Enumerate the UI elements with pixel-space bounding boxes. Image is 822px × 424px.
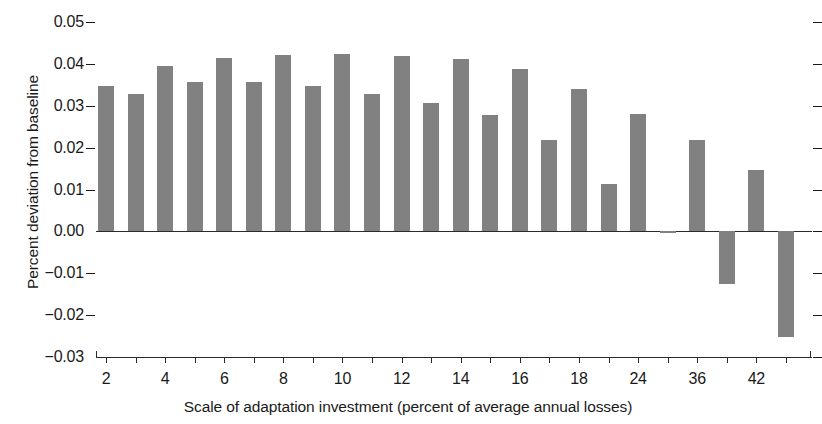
bar [423,103,439,231]
x-axis-tick-label: 2 [86,371,126,387]
bar [246,82,262,231]
bar [364,94,380,231]
y-axis-tick-right [813,106,822,107]
bar [571,89,587,231]
bar [187,82,203,231]
bar [630,114,646,232]
bar [453,59,469,231]
x-axis-tick [579,357,580,363]
bar [157,66,173,232]
y-axis-tick-right [813,357,822,358]
x-axis-tick [756,357,757,363]
x-axis-tick-label: 10 [322,371,362,387]
x-axis-tick [313,357,314,363]
bar [778,231,794,337]
y-axis-tick-label: 0.01 [26,182,84,198]
y-axis-tick-right [813,64,822,65]
y-axis-tick [86,315,95,316]
x-axis-tick-label: 8 [263,371,303,387]
bar [305,86,321,231]
x-axis-tick-label: 12 [382,371,422,387]
bar [216,58,232,231]
x-axis-tick-label: 18 [559,371,599,387]
x-axis-tick-label: 42 [736,371,776,387]
x-axis-tick [224,357,225,363]
x-axis-tick [402,357,403,363]
y-axis-tick [86,106,95,107]
y-axis-tick [86,190,95,191]
x-axis-tick [490,357,491,363]
y-axis-tick-right [813,273,822,274]
x-axis-tick [431,357,432,363]
y-axis-tick-right [813,22,822,23]
bar [512,69,528,231]
x-axis-tick [254,357,255,363]
y-axis-tick [86,273,95,274]
y-axis-tick-label: 0.00 [26,223,84,239]
x-axis-tick-label: 14 [441,371,481,387]
x-axis-tick [638,357,639,363]
bar [541,140,557,231]
x-axis-tick [609,357,610,363]
x-axis-tick [727,357,728,363]
y-axis-tick [86,148,95,149]
x-axis-tick-label: 16 [500,371,540,387]
x-axis-tick [165,357,166,363]
y-axis-tick-label: −0.02 [26,307,84,323]
x-axis-tick [283,357,284,363]
x-axis-tick [342,357,343,363]
y-axis-tick-labels: 0.050.040.030.020.010.00−0.01−0.02−0.03 [22,0,84,424]
x-axis-tick [136,357,137,363]
bar [748,170,764,232]
plot-area: 24681012141618243642 [96,10,812,358]
x-axis-tick [668,357,669,363]
x-axis-tick [195,357,196,363]
bar [394,56,410,232]
bar [334,54,350,231]
x-axis-tick [106,357,107,363]
x-axis-title: Scale of adaptation investment (percent … [0,398,816,416]
x-axis-tick [520,357,521,363]
y-axis-tick [86,64,95,65]
x-axis-line [96,357,812,358]
bar [689,140,705,231]
x-axis-tick-label: 24 [618,371,658,387]
bar [719,231,735,283]
y-axis-tick-label: 0.05 [26,14,84,30]
x-axis-tick-label: 6 [204,371,244,387]
x-axis-tick [461,357,462,363]
y-axis-tick-right [813,148,822,149]
y-axis-tick-label: −0.01 [26,265,84,281]
bar [601,184,617,232]
bar [275,55,291,232]
x-axis-tick [786,357,787,363]
x-axis-tick [549,357,550,363]
bar [660,231,676,233]
bar [482,115,498,231]
x-axis-tick [697,357,698,363]
y-axis-tick-label: 0.02 [26,140,84,156]
axis-end-cap [96,351,97,357]
x-axis-tick-label: 4 [145,371,185,387]
zero-baseline [96,231,812,232]
y-axis-tick-label: 0.04 [26,56,84,72]
y-axis-tick-label: −0.03 [26,349,84,365]
y-axis-tick-right [813,315,822,316]
bar [98,86,114,231]
x-axis-tick [372,357,373,363]
axis-end-cap [810,351,811,357]
bar [128,94,144,231]
y-axis-tick [86,22,95,23]
y-axis-tick-label: 0.03 [26,98,84,114]
x-axis-tick-label: 36 [677,371,717,387]
y-axis-tick-right [813,231,822,232]
y-axis-tick-right [813,190,822,191]
